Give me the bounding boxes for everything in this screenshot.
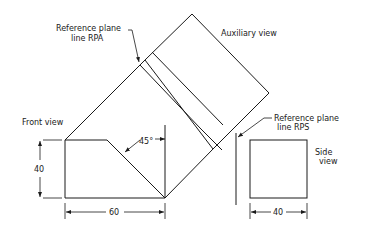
side-view-label-line2: view <box>319 157 338 166</box>
side-width-label: 40 <box>273 208 283 217</box>
rps-label-line1: Reference plane <box>274 114 339 123</box>
angle-label: 45° <box>139 137 153 146</box>
side-width-dimension: 40 <box>250 203 307 219</box>
side-view-label-line1: Side <box>315 148 332 157</box>
angle-dimension: 45° <box>125 137 165 152</box>
rps-leader <box>238 118 272 137</box>
rpa-label-line1: Reference plane <box>56 24 121 33</box>
front-width-dimension: 60 <box>65 203 165 219</box>
rpa-leader <box>128 30 139 62</box>
rpa-label-line2: line RPA <box>71 34 104 43</box>
technical-drawing: 45° 40 60 40 Reference plane line RPA Au… <box>0 0 372 236</box>
auxiliary-view-label: Auxiliary view <box>221 29 277 38</box>
rps-label-line2: line RPS <box>277 123 309 132</box>
side-view <box>236 133 307 205</box>
front-view <box>65 60 165 198</box>
height-dimension: 40 <box>34 140 62 198</box>
front-width-label: 60 <box>109 208 119 217</box>
front-view-label: Front view <box>22 118 64 127</box>
height-label: 40 <box>34 165 44 174</box>
